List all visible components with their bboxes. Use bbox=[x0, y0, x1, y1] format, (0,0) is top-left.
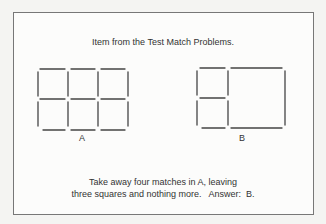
label-b: B bbox=[239, 133, 245, 143]
label-a: A bbox=[79, 133, 85, 143]
diagram-a bbox=[38, 69, 128, 130]
diagram-b bbox=[197, 68, 285, 128]
caption-line-2: three squares and nothing more. Answer: … bbox=[0, 188, 326, 200]
caption-line-1: Take away four matches in A, leaving bbox=[0, 176, 326, 188]
